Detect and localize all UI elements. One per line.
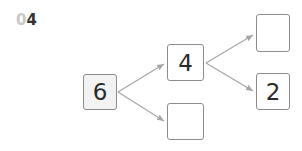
root-box: 6: [83, 74, 117, 110]
arrow-root-to-lower: [118, 92, 164, 121]
level1-lower-box[interactable]: [167, 103, 204, 140]
arrow-mid-to-top: [206, 35, 253, 63]
level1-upper-box: 4: [167, 44, 204, 81]
level2-bottom-box: 2: [256, 73, 290, 110]
arrow-mid-to-bottom: [206, 63, 253, 91]
level2-top-box[interactable]: [256, 14, 290, 52]
arrow-root-to-upper: [118, 64, 164, 92]
